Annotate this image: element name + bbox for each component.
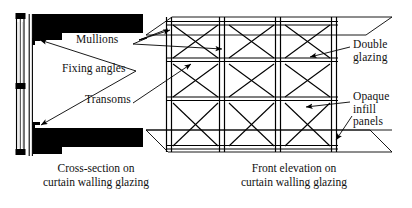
leader-mullions-kink bbox=[133, 38, 147, 44]
leader-double-glazing bbox=[310, 47, 350, 57]
label-double-glazing-line-1: Double bbox=[353, 38, 387, 50]
leader-opaque-infill-upper bbox=[306, 102, 350, 107]
caption-cross-section-line-2: curtain walling glazing bbox=[8, 176, 184, 190]
caption-cross-section-line-1: Cross-section on bbox=[8, 162, 184, 176]
label-double-glazing-line-2: glazing bbox=[353, 51, 388, 63]
label-opaque-line-2: infill bbox=[353, 103, 376, 115]
caption-front-elevation: Front elevation on curtain walling glazi… bbox=[196, 162, 392, 189]
fixing-angle-bracket-top bbox=[32, 38, 40, 45]
caption-front-elevation-line-1: Front elevation on bbox=[196, 162, 392, 176]
leader-mullions-arrow-b bbox=[133, 44, 222, 49]
label-opaque-line-1: Opaque bbox=[353, 90, 389, 102]
label-opaque-line-3: panels bbox=[353, 115, 383, 127]
label-transoms: Transoms bbox=[85, 93, 131, 106]
transom-cap-top bbox=[16, 13, 26, 19]
caption-cross-section: Cross-section on curtain walling glazing bbox=[8, 162, 184, 189]
label-double-glazing: Double glazing bbox=[353, 38, 388, 63]
label-opaque-infill-panels: Opaque infill panels bbox=[353, 90, 389, 128]
fixing-angle-bracket-bottom bbox=[32, 122, 40, 129]
panel-cross-bracing bbox=[173, 25, 330, 146]
transom-cap-middle bbox=[16, 83, 26, 89]
caption-front-elevation-line-2: curtain walling glazing bbox=[196, 176, 392, 190]
label-mullions: Mullions bbox=[76, 33, 118, 46]
transom-cap-bottom bbox=[16, 149, 26, 155]
label-fixing-angles: Fixing angles bbox=[62, 62, 126, 75]
floor-slab-bottom bbox=[33, 128, 143, 154]
curtain-walling-figure: Mullions Fixing angles Transoms Double g… bbox=[0, 0, 412, 208]
